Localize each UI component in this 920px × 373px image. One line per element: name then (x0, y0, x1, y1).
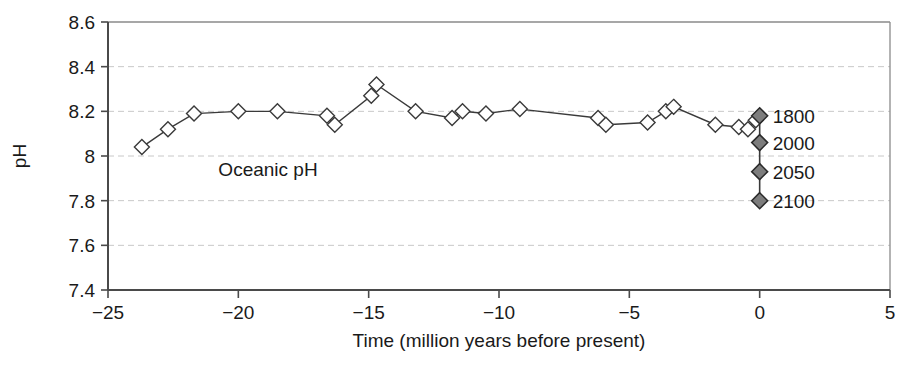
x-axis: −25−20−15−10−505 (92, 290, 895, 323)
oceanic-ph-annotation: Oceanic pH (218, 159, 317, 180)
y-tick-label-6: 8.6 (69, 12, 95, 33)
data-point-marker (478, 106, 493, 121)
y-tick-label-3: 8 (84, 146, 95, 167)
x-tick-label-0: −25 (92, 302, 124, 323)
x-tick-label-3: −10 (483, 302, 515, 323)
data-point-marker (160, 122, 175, 137)
data-point-marker (640, 115, 655, 130)
projection-label-2100: 2100 (773, 191, 815, 212)
x-axis-title: Time (million years before present) (353, 330, 646, 351)
x-tick-label-4: −5 (618, 302, 640, 323)
data-point-marker (134, 140, 149, 155)
data-line-group (142, 85, 760, 201)
y-tick-label-5: 8.4 (69, 57, 96, 78)
gridlines (108, 67, 890, 246)
proxy-markers (134, 77, 763, 155)
y-tick-label-2: 7.8 (69, 191, 95, 212)
x-tick-label-1: −20 (222, 302, 254, 323)
projection-label-2000: 2000 (773, 133, 815, 154)
y-axis: 7.47.67.888.28.48.6 (69, 12, 108, 301)
x-tick-label-5: 0 (754, 302, 765, 323)
y-tick-label-0: 7.4 (69, 280, 96, 301)
projection-markers: 1800200020502100 (752, 106, 815, 212)
data-point-marker (708, 117, 723, 132)
data-point-marker (408, 104, 423, 119)
projection-label-2050: 2050 (773, 162, 815, 183)
y-axis-title: pH (9, 144, 30, 168)
projection-point-marker (752, 164, 768, 180)
projection-point-marker (752, 135, 768, 151)
data-point-marker (231, 104, 246, 119)
projection-label-1800: 1800 (773, 106, 815, 127)
data-point-marker (187, 106, 202, 121)
data-point-marker (270, 104, 285, 119)
y-tick-label-1: 7.6 (69, 235, 95, 256)
projection-point-marker (752, 193, 768, 209)
y-tick-label-4: 8.2 (69, 101, 95, 122)
x-tick-label-2: −15 (353, 302, 385, 323)
x-tick-label-6: 5 (885, 302, 896, 323)
data-point-marker (512, 102, 527, 117)
ph-timeseries-chart: 7.47.67.888.28.48.6−25−20−15−10−505Time … (0, 0, 920, 373)
chart-canvas: 7.47.67.888.28.48.6−25−20−15−10−505Time … (0, 0, 920, 373)
